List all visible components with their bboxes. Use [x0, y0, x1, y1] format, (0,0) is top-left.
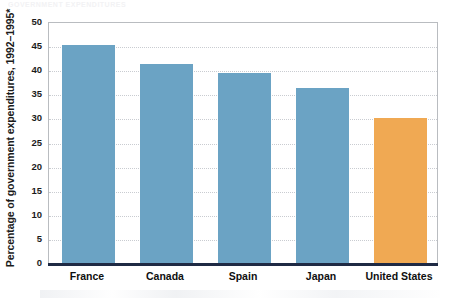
y-tick-label-15: 15 — [20, 186, 42, 196]
x-label-canada: Canada — [126, 270, 204, 282]
bar-japan[interactable] — [296, 88, 349, 263]
x-axis-baseline — [48, 263, 438, 266]
x-label-japan: Japan — [282, 270, 360, 282]
y-axis-title: Percentage of government expenditures, 1… — [0, 0, 20, 275]
bar-chart-figure: GOVERNMENT EXPENDITURES Percentage of go… — [0, 0, 464, 302]
y-tick-label-45: 45 — [20, 41, 42, 51]
scan-artifact — [40, 290, 440, 298]
cut-off-header-text: GOVERNMENT EXPENDITURES — [8, 1, 168, 8]
bar-united-states[interactable] — [374, 118, 427, 263]
y-tick-label-0: 0 — [20, 258, 42, 268]
y-tick-label-20: 20 — [20, 162, 42, 172]
y-tick-label-35: 35 — [20, 89, 42, 99]
y-tick-label-30: 30 — [20, 113, 42, 123]
bar-spain[interactable] — [218, 73, 271, 263]
bar-canada[interactable] — [140, 64, 193, 263]
y-tick-label-10: 10 — [20, 210, 42, 220]
y-axis-title-text: Percentage of government expenditures, 1… — [4, 8, 16, 266]
bar-france[interactable] — [62, 45, 115, 263]
plot-area — [48, 22, 438, 263]
y-tick-label-50: 50 — [20, 17, 42, 27]
y-tick-label-5: 5 — [20, 234, 42, 244]
y-tick-label-25: 25 — [20, 138, 42, 148]
x-label-france: France — [48, 270, 126, 282]
y-tick-label-40: 40 — [20, 65, 42, 75]
x-label-spain: Spain — [204, 270, 282, 282]
x-label-united-states: United States — [360, 270, 438, 282]
